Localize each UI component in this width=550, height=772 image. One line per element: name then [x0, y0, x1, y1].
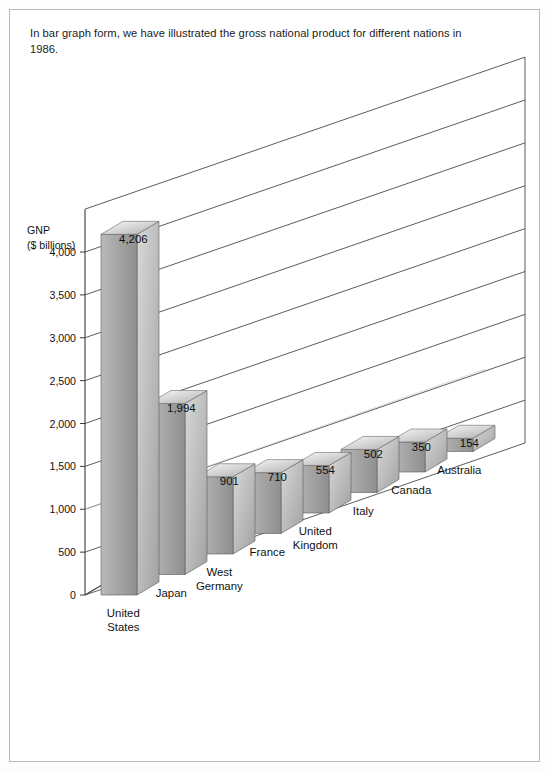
- bar-category-label: United: [107, 607, 140, 619]
- y-axis: 4,0003,5003,0002,5002,0001,5001,0005000: [49, 209, 107, 601]
- bar-value-label: 154: [460, 437, 479, 449]
- y-tick-label: 0: [70, 589, 76, 601]
- bar-value-label: 1,994: [167, 402, 196, 414]
- bar-chart-3d: 4,0003,5003,0002,5002,0001,5001,0005000 …: [9, 9, 540, 762]
- y-tick-label: 500: [58, 546, 76, 558]
- bar: [101, 221, 159, 595]
- chart-canvas: 4,0003,5003,0002,5002,0001,5001,0005000 …: [9, 9, 540, 762]
- y-tick-label: 1,000: [49, 503, 76, 515]
- y-tick-label: 2,000: [49, 418, 76, 430]
- y-axis-title-line2: ($ billions): [27, 239, 75, 251]
- page: In bar graph form, we have illustrated t…: [0, 0, 550, 772]
- bar-category-label: Canada: [391, 484, 432, 496]
- bar-side-face: [137, 221, 159, 595]
- bar-front-face: [101, 234, 137, 595]
- bar-value-label: 710: [268, 471, 287, 483]
- bar-value-label: 4,206: [119, 233, 148, 245]
- bar-category-label: United: [299, 525, 332, 537]
- bar-category-label: Germany: [196, 580, 243, 592]
- bar-category-label: Australia: [437, 464, 482, 476]
- bar-value-label: 901: [220, 475, 239, 487]
- bar-category-label: States: [107, 621, 140, 633]
- bar-category-label: Italy: [353, 505, 374, 517]
- y-axis-title-line1: GNP: [27, 224, 50, 236]
- bar-value-label: 350: [412, 441, 431, 453]
- y-tick-label: 1,500: [49, 460, 76, 472]
- bar-value-label: 554: [316, 464, 335, 476]
- bar-category-label: Japan: [156, 587, 187, 599]
- bar-category-label: West: [206, 566, 233, 578]
- y-tick-label: 2,500: [49, 375, 76, 387]
- bar-value-label: 502: [364, 448, 383, 460]
- bar-category-label: Kingdom: [293, 539, 338, 551]
- bar-category-label: France: [250, 546, 285, 558]
- bar-side-face: [185, 391, 207, 575]
- y-tick-label: 3,000: [49, 332, 76, 344]
- y-tick-label: 3,500: [49, 289, 76, 301]
